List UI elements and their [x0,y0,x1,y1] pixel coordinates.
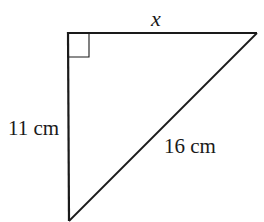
right-triangle-diagram: x 11 cm 16 cm [0,0,264,222]
label-hypotenuse: 16 cm [164,134,216,158]
hypotenuse-line [69,33,257,221]
left-side-line [68,32,69,221]
label-top-side: x [150,6,161,31]
right-angle-marker [68,33,89,57]
label-left-side: 11 cm [8,116,59,140]
